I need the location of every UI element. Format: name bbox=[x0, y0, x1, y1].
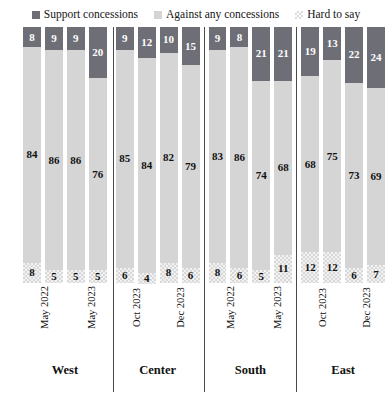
segment-value-label: 68 bbox=[305, 159, 316, 170]
segment-hard-to-say[interactable]: 12 bbox=[301, 252, 319, 283]
segment-hard-to-say[interactable]: 6 bbox=[345, 268, 363, 283]
segment-value-label: 9 bbox=[73, 33, 79, 44]
segment-hard-to-say[interactable]: 8 bbox=[23, 263, 41, 283]
stacked-bar[interactable]: 9865 bbox=[67, 27, 85, 283]
segment-against-any-concessions[interactable]: 68 bbox=[301, 76, 319, 252]
segment-against-any-concessions[interactable]: 83 bbox=[209, 50, 227, 262]
segment-value-label: 75 bbox=[327, 151, 338, 162]
stacked-bar[interactable]: 15796 bbox=[182, 27, 200, 283]
bar-group-center: 9856128441082815796 bbox=[114, 27, 202, 283]
segment-against-any-concessions[interactable]: 86 bbox=[45, 50, 63, 270]
segment-hard-to-say[interactable]: 4 bbox=[138, 273, 156, 284]
stacked-bar[interactable]: 24697 bbox=[367, 27, 385, 283]
segment-value-label: 24 bbox=[371, 52, 382, 63]
period-tick-label: May 2022 bbox=[225, 286, 236, 329]
segment-support-concessions[interactable]: 22 bbox=[345, 27, 363, 83]
segment-hard-to-say[interactable]: 12 bbox=[323, 252, 341, 283]
period-tick: May 2022 bbox=[209, 285, 252, 343]
segment-hard-to-say[interactable]: 8 bbox=[209, 263, 227, 283]
segment-value-label: 86 bbox=[70, 155, 81, 166]
region-label-cell: East bbox=[299, 352, 387, 392]
segment-value-label: 8 bbox=[237, 32, 243, 43]
period-tick-label: May 2022 bbox=[39, 286, 50, 329]
segment-hard-to-say[interactable]: 5 bbox=[45, 270, 63, 283]
segment-against-any-concessions[interactable]: 79 bbox=[182, 65, 200, 267]
segment-against-any-concessions[interactable]: 84 bbox=[138, 58, 156, 273]
stacked-bar[interactable]: 22736 bbox=[345, 27, 363, 283]
segment-support-concessions[interactable]: 21 bbox=[274, 27, 292, 81]
segment-hard-to-say[interactable]: 6 bbox=[116, 268, 134, 283]
segment-value-label: 76 bbox=[92, 169, 103, 180]
segment-support-concessions[interactable]: 10 bbox=[160, 27, 178, 53]
stacked-bar[interactable]: 9838 bbox=[209, 27, 227, 283]
segment-support-concessions[interactable]: 12 bbox=[138, 27, 156, 58]
segment-against-any-concessions[interactable]: 86 bbox=[230, 47, 248, 267]
segment-value-label: 22 bbox=[349, 49, 360, 60]
region-label: Center bbox=[139, 363, 176, 378]
segment-against-any-concessions[interactable]: 76 bbox=[89, 78, 107, 271]
stacked-bar[interactable]: 20765 bbox=[89, 27, 107, 283]
stacked-bar[interactable]: 9865 bbox=[45, 27, 63, 283]
segment-against-any-concessions[interactable]: 68 bbox=[274, 81, 292, 255]
segment-support-concessions[interactable]: 13 bbox=[323, 27, 341, 60]
segment-against-any-concessions[interactable]: 82 bbox=[160, 53, 178, 263]
stacked-bar[interactable]: 137512 bbox=[323, 27, 341, 283]
stacked-bar[interactable]: 196812 bbox=[301, 27, 319, 283]
region-label-cell: Center bbox=[114, 352, 202, 392]
period-tick-label: Oct 2023 bbox=[131, 288, 142, 327]
segment-value-label: 86 bbox=[234, 152, 245, 163]
stacked-bar[interactable]: 21745 bbox=[252, 27, 270, 283]
segment-against-any-concessions[interactable]: 73 bbox=[345, 83, 363, 268]
segment-against-any-concessions[interactable]: 84 bbox=[23, 47, 41, 262]
stacked-bar[interactable]: 10828 bbox=[160, 27, 178, 283]
stacked-bar[interactable]: 8866 bbox=[230, 27, 248, 283]
bar-group-west: 88489865986520765 bbox=[21, 27, 109, 283]
segment-against-any-concessions[interactable]: 75 bbox=[323, 60, 341, 252]
plot-area: 8848986598652076598561284410828157969838… bbox=[21, 27, 387, 283]
period-tick: May 2023 bbox=[256, 285, 299, 343]
segment-value-label: 6 bbox=[237, 270, 243, 281]
segment-support-concessions[interactable]: 9 bbox=[45, 27, 63, 50]
segment-against-any-concessions[interactable]: 86 bbox=[67, 50, 85, 270]
segment-support-concessions[interactable]: 21 bbox=[252, 27, 270, 81]
segment-hard-to-say[interactable]: 5 bbox=[89, 270, 107, 283]
segment-support-concessions[interactable]: 8 bbox=[23, 27, 41, 47]
segment-value-label: 7 bbox=[373, 269, 379, 280]
segment-support-concessions[interactable]: 20 bbox=[89, 27, 107, 78]
segment-value-label: 5 bbox=[73, 271, 79, 282]
legend-entry: Against any concessions bbox=[154, 9, 279, 21]
segment-support-concessions[interactable]: 9 bbox=[67, 27, 85, 50]
segment-hard-to-say[interactable]: 5 bbox=[252, 270, 270, 283]
segment-value-label: 84 bbox=[26, 149, 37, 160]
segment-against-any-concessions[interactable]: 69 bbox=[367, 88, 385, 265]
stacked-bar[interactable]: 9856 bbox=[116, 27, 134, 283]
segment-support-concessions[interactable]: 9 bbox=[209, 27, 227, 50]
segment-support-concessions[interactable]: 19 bbox=[301, 27, 319, 76]
segment-hard-to-say[interactable]: 5 bbox=[67, 270, 85, 283]
segment-value-label: 83 bbox=[212, 151, 223, 162]
segment-hard-to-say[interactable]: 11 bbox=[274, 255, 292, 283]
segment-value-label: 21 bbox=[278, 48, 289, 59]
legend-label: Hard to say bbox=[307, 9, 360, 21]
segment-value-label: 69 bbox=[371, 171, 382, 182]
segment-value-label: 79 bbox=[185, 161, 196, 172]
segment-hard-to-say[interactable]: 6 bbox=[230, 268, 248, 283]
segment-against-any-concessions[interactable]: 74 bbox=[252, 81, 270, 270]
chart-legend: Support concessionsAgainst any concessio… bbox=[0, 6, 392, 24]
segment-against-any-concessions[interactable]: 85 bbox=[116, 50, 134, 268]
segment-value-label: 74 bbox=[256, 170, 267, 181]
segment-hard-to-say[interactable]: 8 bbox=[160, 263, 178, 283]
segment-value-label: 6 bbox=[351, 270, 357, 281]
stacked-bar[interactable]: 12844 bbox=[138, 27, 156, 283]
stacked-bar[interactable]: 8848 bbox=[23, 27, 41, 283]
segment-support-concessions[interactable]: 8 bbox=[230, 27, 248, 47]
segment-value-label: 9 bbox=[51, 33, 57, 44]
segment-hard-to-say[interactable]: 7 bbox=[367, 265, 385, 283]
stacked-bar[interactable]: 216811 bbox=[274, 27, 292, 283]
solid-square-icon bbox=[154, 11, 162, 19]
segment-value-label: 15 bbox=[185, 41, 196, 52]
segment-hard-to-say[interactable]: 6 bbox=[182, 268, 200, 283]
segment-support-concessions[interactable]: 24 bbox=[367, 27, 385, 88]
segment-support-concessions[interactable]: 9 bbox=[116, 27, 134, 50]
segment-support-concessions[interactable]: 15 bbox=[182, 27, 200, 65]
